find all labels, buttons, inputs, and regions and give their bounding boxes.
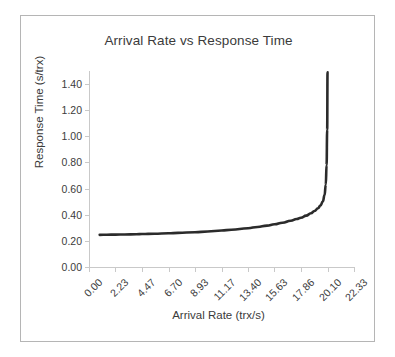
series-line-response-time [100,72,328,235]
plot-curve-layer [21,16,376,343]
y-axis-title: Response Time (s/trx) [33,32,45,192]
x-axis-title: Arrival Rate (trx/s) [21,309,376,321]
chart-frame: Arrival Rate vs Response Time 0.000.200.… [20,15,375,342]
